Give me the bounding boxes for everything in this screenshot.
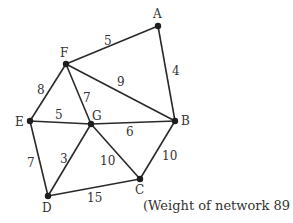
edge-weight-B-C: 10	[162, 149, 177, 163]
edge-weight-G-B: 6	[126, 125, 134, 139]
node-labels: AFBEGDC	[15, 7, 190, 215]
node-C	[137, 176, 143, 182]
node-label-G: G	[92, 109, 102, 123]
edge-weight-G-C: 10	[100, 154, 115, 168]
edge-F-A	[66, 26, 158, 64]
node-label-E: E	[15, 115, 24, 129]
edge-weights: 549875673101015	[27, 34, 180, 205]
edge-weight-F-A: 5	[104, 34, 112, 48]
graph-edges	[30, 26, 175, 196]
edge-weight-G-D: 3	[60, 152, 68, 166]
edge-weight-F-E: 8	[37, 83, 45, 97]
edge-weight-E-D: 7	[27, 156, 35, 170]
network-graph: 549875673101015 AFBEGDC (Weight of netwo…	[0, 0, 293, 223]
node-E	[27, 118, 33, 124]
edge-weight-E-G: 5	[55, 108, 63, 122]
network-weight-caption: (Weight of network 89 km)	[143, 198, 293, 213]
edge-weight-F-B: 9	[117, 75, 125, 89]
node-label-D: D	[42, 201, 52, 215]
edge-weight-A-B: 4	[172, 64, 180, 78]
node-A	[155, 23, 161, 29]
edge-G-D	[48, 124, 91, 196]
node-label-F: F	[60, 46, 68, 60]
edge-weight-D-C: 15	[87, 191, 102, 205]
edge-G-B	[91, 121, 175, 124]
node-label-A: A	[152, 7, 162, 21]
node-F	[63, 61, 69, 67]
edge-weight-F-G: 7	[83, 91, 91, 105]
node-D	[45, 193, 51, 199]
node-label-B: B	[181, 114, 190, 128]
node-label-C: C	[135, 183, 144, 197]
node-B	[172, 118, 178, 124]
